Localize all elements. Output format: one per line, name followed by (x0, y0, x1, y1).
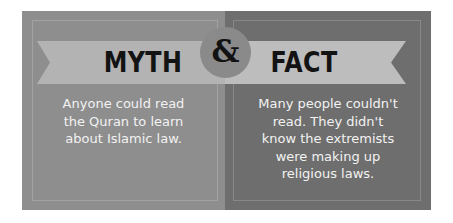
myth-heading: MYTH (104, 48, 183, 77)
ampersand-glyph: & (212, 36, 240, 67)
myth-fact-infographic: MYTH Anyone could read the Quran to lear… (0, 0, 453, 223)
fact-panel: FACT Many people couldn't read. They did… (225, 11, 431, 210)
myth-panel: MYTH Anyone could read the Quran to lear… (22, 11, 225, 210)
fact-ribbon-banner: FACT (225, 41, 406, 84)
myth-body-text: Anyone could read the Quran to learn abo… (22, 95, 225, 148)
fact-heading: FACT (270, 48, 337, 77)
fact-body-text: Many people couldn't read. They didn't k… (225, 95, 431, 183)
myth-ribbon-banner: MYTH (37, 41, 225, 84)
ampersand-medallion-icon: & (200, 27, 251, 78)
